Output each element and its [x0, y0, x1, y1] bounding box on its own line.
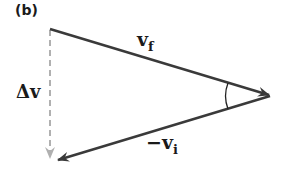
angle-arc [226, 83, 229, 109]
vf-vector [50, 29, 269, 95]
vector-triangle [0, 0, 283, 177]
panel-label: (b) [15, 2, 38, 18]
vf-label: vf [137, 28, 154, 54]
delta-v-label: Δv [16, 81, 40, 102]
minus-vi-label: −vi [146, 131, 178, 157]
